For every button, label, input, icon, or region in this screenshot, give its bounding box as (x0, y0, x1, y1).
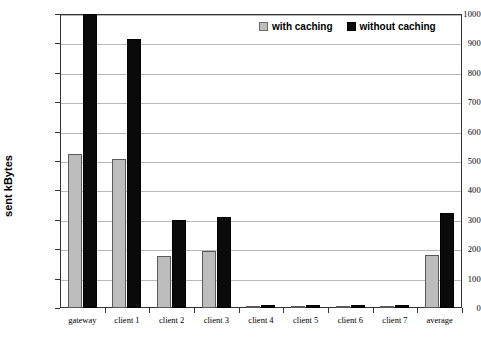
legend-label-with-caching: with caching (272, 21, 333, 32)
gridline (61, 162, 461, 163)
y-tick-mark (55, 249, 60, 250)
x-tick-label: client 7 (382, 315, 407, 325)
x-tick-label: client 1 (114, 315, 139, 325)
legend-entry-without-caching: without caching (347, 21, 436, 32)
y-tick-label: 100 (435, 274, 481, 284)
gridline (61, 133, 461, 134)
y-tick-label: 800 (435, 68, 481, 78)
y-tick-mark (55, 190, 60, 191)
x-tick-mark (283, 308, 284, 313)
y-tick-mark (55, 308, 60, 309)
x-tick-label: client 2 (159, 315, 184, 325)
y-tick-label: 1000 (435, 9, 481, 19)
gridline (61, 74, 461, 75)
gridline (61, 191, 461, 192)
y-tick-mark (55, 279, 60, 280)
x-tick-label: client 5 (293, 315, 318, 325)
y-tick-mark (55, 43, 60, 44)
x-tick-mark (239, 308, 240, 313)
y-tick-mark (55, 73, 60, 74)
y-tick-mark (55, 102, 60, 103)
x-tick-label: client 3 (204, 315, 229, 325)
y-tick-label: 400 (435, 185, 481, 195)
y-tick-label: 0 (435, 303, 481, 313)
x-tick-label: client 4 (248, 315, 273, 325)
gridline (61, 221, 461, 222)
y-tick-label: 300 (435, 215, 481, 225)
y-tick-label: 900 (435, 38, 481, 48)
plot-area (60, 14, 462, 308)
gridline (61, 15, 461, 16)
legend-label-without-caching: without caching (360, 21, 436, 32)
x-tick-label: client 6 (338, 315, 363, 325)
gridline (61, 250, 461, 251)
bar-chart: sent kBytes 0100200300400500600700800900… (0, 0, 481, 342)
gray-square-icon (259, 22, 268, 31)
y-tick-label: 200 (435, 244, 481, 254)
y-tick-mark (55, 14, 60, 15)
y-tick-label: 700 (435, 97, 481, 107)
y-tick-mark (55, 220, 60, 221)
x-tick-mark (417, 308, 418, 313)
y-tick-mark (55, 161, 60, 162)
y-tick-label: 500 (435, 156, 481, 166)
x-tick-mark (462, 308, 463, 313)
black-square-icon (347, 22, 356, 31)
gridline (61, 280, 461, 281)
legend-entry-with-caching: with caching (259, 21, 333, 32)
gridline (61, 44, 461, 45)
x-tick-label: gateway (68, 315, 96, 325)
x-tick-mark (373, 308, 374, 313)
x-tick-label: average (426, 315, 452, 325)
y-tick-mark (55, 132, 60, 133)
x-tick-mark (328, 308, 329, 313)
x-tick-mark (194, 308, 195, 313)
gridline (61, 103, 461, 104)
x-tick-mark (105, 308, 106, 313)
x-tick-mark (149, 308, 150, 313)
y-tick-label: 600 (435, 127, 481, 137)
chart-legend: with caching without caching (259, 21, 436, 32)
y-axis-title: sent kBytes (2, 126, 14, 246)
